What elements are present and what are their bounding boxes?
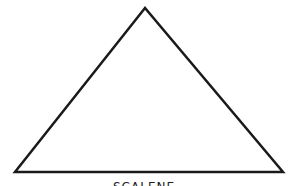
triangle-shape [15,8,283,172]
figure-caption: SCALENE [0,180,288,186]
triangle-figure [0,0,288,186]
